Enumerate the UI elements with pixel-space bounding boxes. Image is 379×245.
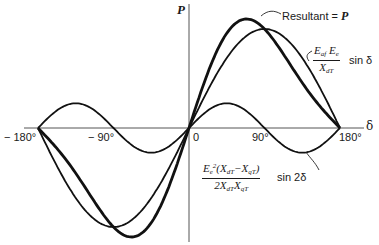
power-angle-chart	[0, 0, 379, 245]
sin-delta-label: sin δ	[349, 54, 372, 66]
sin2-leader-line	[306, 152, 319, 170]
sin-2delta-label: sin 2δ	[277, 171, 306, 183]
tick-minus-90: − 90°	[88, 131, 114, 143]
resultant-label-text: Resultant =	[282, 10, 341, 22]
sin-delta-denominator: XdT	[313, 61, 340, 78]
tick-180: 180°	[339, 131, 362, 143]
sin-delta-coefficient: Eaf Ee XdT	[313, 44, 340, 78]
sin-delta-numerator: Eaf Ee	[313, 44, 340, 61]
tick-zero: 0	[193, 131, 199, 143]
sin-2delta-numerator: Ee2(XdT−XqT)	[202, 160, 260, 179]
sin-2delta-denominator: 2XdTXqT	[202, 179, 260, 196]
resultant-label: Resultant = P	[282, 9, 348, 24]
y-axis-label: P	[177, 2, 185, 18]
resultant-leader-line	[261, 11, 281, 16]
x-axis-label: δ	[366, 119, 373, 133]
sin-2delta-coefficient: Ee2(XdT−XqT) 2XdTXqT	[202, 160, 260, 196]
resultant-label-var: P	[341, 9, 348, 23]
tick-90: 90°	[252, 131, 269, 143]
tick-minus-180: − 180°	[4, 131, 36, 143]
sin-delta-leader-line	[307, 51, 312, 61]
